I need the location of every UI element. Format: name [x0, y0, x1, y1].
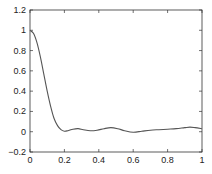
y-tick-label: 0.2 [13, 106, 26, 116]
y-tick-label: 0.6 [13, 66, 26, 76]
x-tick-label: 0 [27, 155, 32, 165]
y-tick-label: 1 [21, 25, 26, 35]
x-tick-label: 0.4 [93, 155, 106, 165]
y-tick-label: 0.8 [13, 46, 26, 56]
y-tick-label: 1.2 [13, 5, 26, 15]
x-tick-label: 1 [199, 155, 204, 165]
y-tick-label: 0 [21, 127, 26, 137]
x-tick-label: 0.2 [58, 155, 71, 165]
y-tick-label: 0.4 [13, 86, 26, 96]
x-tick-label: 0.6 [127, 155, 140, 165]
plot-area [30, 10, 202, 152]
x-tick-label: 0.8 [161, 155, 174, 165]
line-chart: 00.20.40.60.81 −0.200.20.40.60.811.2 [0, 0, 212, 174]
y-tick-label: −0.2 [8, 147, 26, 157]
